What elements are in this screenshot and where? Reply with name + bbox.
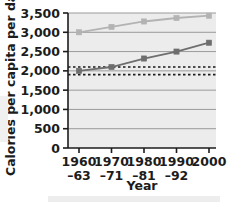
x-tick-label-year: 1960 bbox=[62, 154, 97, 169]
data-point-upper-line-2 bbox=[141, 19, 146, 24]
page-bottom-band bbox=[48, 196, 220, 202]
plot-area-background bbox=[68, 13, 216, 148]
data-point-upper-line-4 bbox=[206, 13, 211, 18]
page-left-margin-band bbox=[0, 96, 8, 142]
y-tick-label: 2,500 bbox=[20, 44, 60, 59]
x-tick-label-range: –92 bbox=[165, 168, 189, 183]
x-axis-title: Year bbox=[126, 178, 159, 193]
y-tick-label: 0 bbox=[51, 141, 60, 156]
x-tick-label-range: –71 bbox=[100, 168, 124, 183]
y-tick-label: 3,000 bbox=[20, 25, 60, 40]
data-point-upper-line-0 bbox=[76, 30, 81, 35]
data-point-lower-line-4 bbox=[206, 40, 211, 45]
y-tick-label: 1,500 bbox=[20, 83, 60, 98]
data-point-upper-line-1 bbox=[109, 24, 114, 29]
x-tick-label-year: 1990 bbox=[159, 154, 194, 169]
y-tick-label: 1,000 bbox=[20, 102, 60, 117]
x-tick-label-year: 2000 bbox=[192, 154, 227, 169]
data-point-lower-line-0 bbox=[76, 68, 81, 73]
y-tick-label: 3,500 bbox=[20, 6, 60, 21]
data-point-upper-line-3 bbox=[174, 15, 179, 20]
calories-per-capita-line-chart: 05001,0001,5002,0002,5003,0003,500 1960–… bbox=[0, 0, 228, 202]
x-tick-label-year: 1970 bbox=[94, 154, 129, 169]
y-axis-ticks: 05001,0001,5002,0002,5003,0003,500 bbox=[20, 6, 68, 156]
x-tick-label-year: 1980 bbox=[127, 154, 162, 169]
y-tick-label: 500 bbox=[34, 121, 60, 136]
y-axis-title: Calories per capita per day bbox=[3, 0, 18, 176]
data-point-lower-line-3 bbox=[174, 49, 179, 54]
data-point-lower-line-2 bbox=[141, 56, 146, 61]
y-tick-label: 2,000 bbox=[20, 63, 60, 78]
chart-figure: 05001,0001,5002,0002,5003,0003,500 1960–… bbox=[0, 0, 228, 202]
x-tick-label-range: –63 bbox=[67, 168, 91, 183]
data-point-lower-line-1 bbox=[109, 64, 114, 69]
